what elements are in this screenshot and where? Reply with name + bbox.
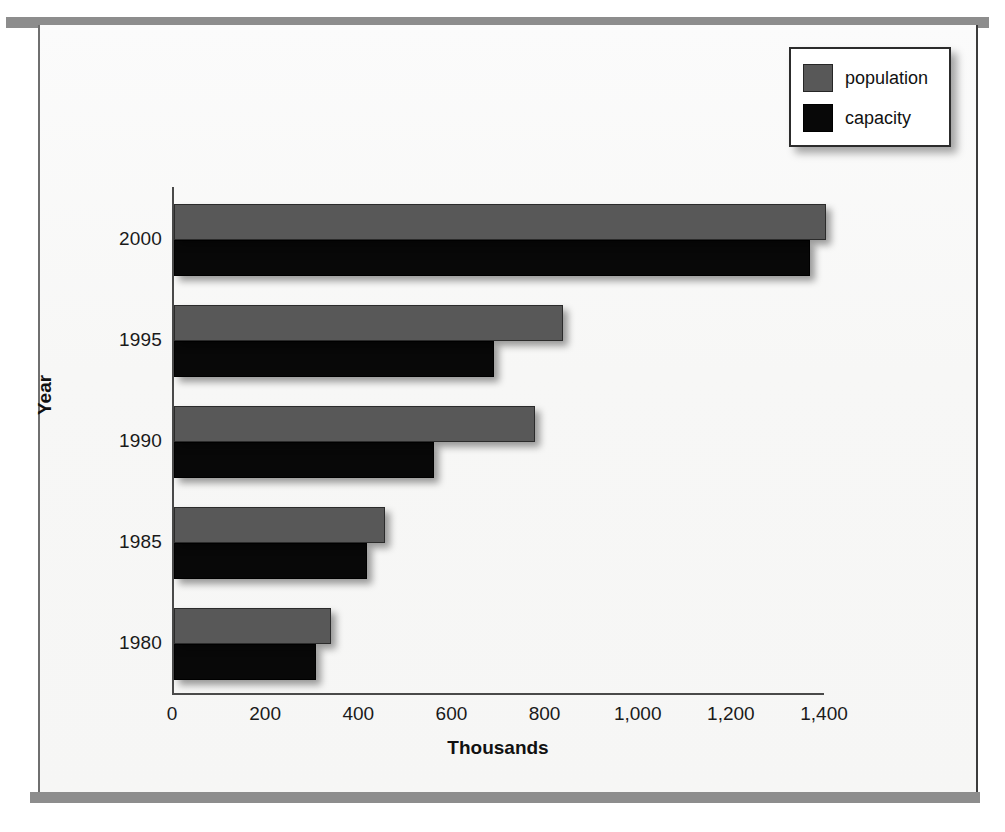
x-tick-label-0: 0	[167, 703, 178, 725]
bar-capacity-1995	[174, 341, 494, 377]
bar-population-1980	[174, 608, 331, 644]
legend-swatch-capacity-icon	[803, 104, 833, 132]
x-tick-label-600: 600	[436, 703, 468, 725]
legend-item-population: population	[803, 58, 949, 98]
chart-legend: population capacity	[789, 47, 951, 147]
x-axis-tick-labels: 02004006008001,0001,2001,400	[172, 703, 824, 731]
legend-label-capacity: capacity	[845, 108, 911, 129]
bar-population-1990	[174, 406, 535, 442]
bar-population-1995	[174, 305, 563, 341]
y-tick-label-1995: 1995	[42, 329, 162, 351]
legend-item-capacity: capacity	[803, 98, 949, 138]
page-rule-bottom	[30, 792, 980, 803]
bars-layer	[174, 189, 834, 695]
bar-population-2000	[174, 204, 826, 240]
x-tick-label-400: 400	[342, 703, 374, 725]
y-tick-label-1980: 1980	[42, 632, 162, 654]
legend-swatch-population-icon	[803, 64, 833, 92]
y-axis-tick-labels: 20001995199019851980	[38, 189, 162, 695]
x-tick-label-800: 800	[529, 703, 561, 725]
y-tick-label-2000: 2000	[42, 228, 162, 250]
y-tick-label-1985: 1985	[42, 531, 162, 553]
bar-chart: Year 20001995199019851980 02004006008001…	[38, 25, 978, 795]
scanned-figure-page: Year 20001995199019851980 02004006008001…	[0, 0, 1005, 832]
x-axis-title: Thousands	[172, 737, 824, 759]
legend-label-population: population	[845, 68, 928, 89]
x-tick-label-1000: 1,000	[614, 703, 662, 725]
x-tick-label-200: 200	[249, 703, 281, 725]
bar-capacity-1985	[174, 543, 367, 579]
bar-capacity-2000	[174, 240, 810, 276]
bar-capacity-1990	[174, 442, 434, 478]
bar-population-1985	[174, 507, 385, 543]
y-tick-label-1990: 1990	[42, 430, 162, 452]
x-tick-label-1400: 1,400	[800, 703, 848, 725]
bar-capacity-1980	[174, 644, 316, 680]
x-tick-label-1200: 1,200	[707, 703, 755, 725]
